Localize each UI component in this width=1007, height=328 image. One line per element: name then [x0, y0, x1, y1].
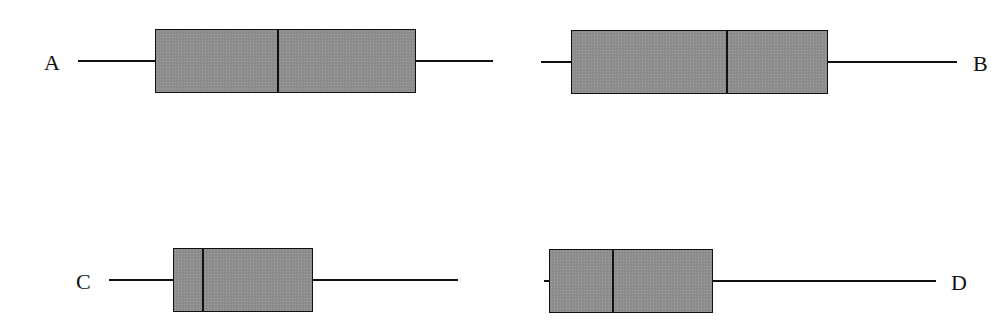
whisker-right-a [416, 60, 493, 62]
median-a [277, 30, 279, 92]
median-c [202, 249, 204, 311]
median-b [726, 31, 728, 93]
whisker-right-b [828, 61, 957, 63]
label-c: C [76, 271, 91, 293]
whisker-left-c [109, 279, 173, 281]
label-b: B [973, 53, 988, 75]
box-a [155, 29, 416, 93]
median-d [612, 250, 614, 312]
label-a: A [44, 52, 60, 74]
whisker-left-b [541, 61, 571, 63]
whisker-right-c [313, 279, 458, 281]
whisker-left-a [78, 60, 155, 62]
box-b [571, 30, 828, 94]
box-d [549, 249, 713, 313]
box-c [173, 248, 313, 312]
boxplot-figure: A B C D [0, 0, 1007, 328]
label-d: D [951, 272, 967, 294]
whisker-right-d [713, 280, 936, 282]
